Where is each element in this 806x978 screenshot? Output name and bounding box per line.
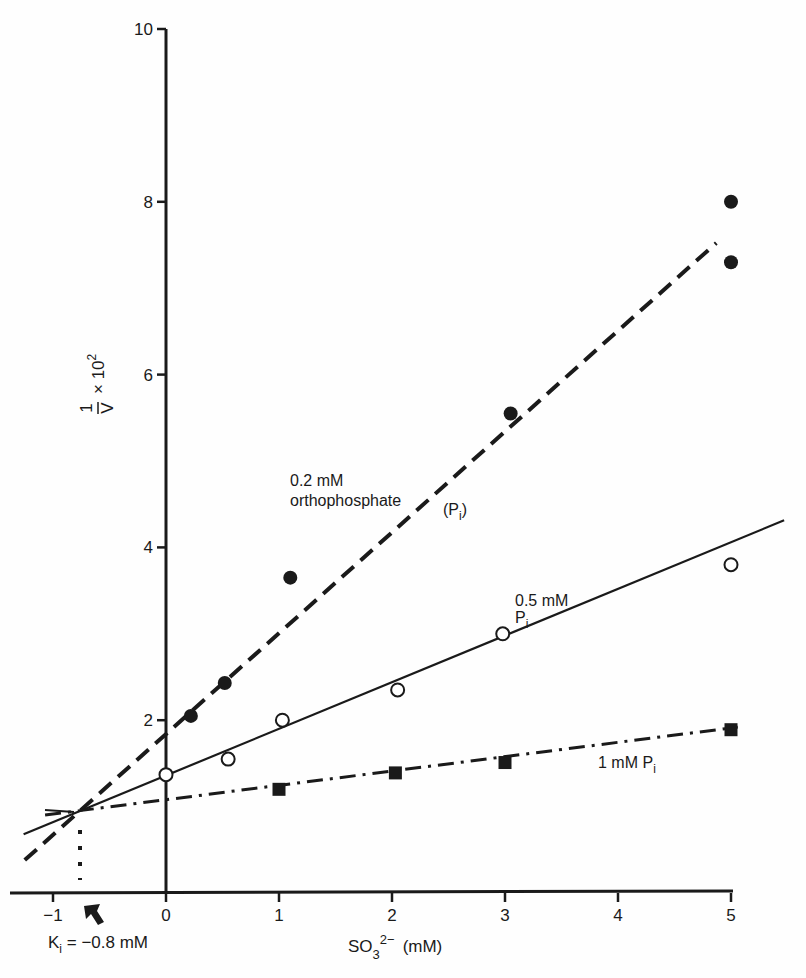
x-axis-title: SO32−(mM) xyxy=(348,932,442,962)
filled-circle-marker xyxy=(283,571,297,585)
annotation-0-5mM: 0.5 mM xyxy=(515,592,568,609)
annotation-orthophosphate-text: orthophosphate xyxy=(290,492,401,509)
ylabel-multiplier: × 102 xyxy=(85,353,108,394)
filled-square-marker xyxy=(725,723,738,736)
pi-sub: i xyxy=(526,617,529,631)
filled-square-marker xyxy=(273,783,286,796)
annotation-1mM: 1 mM Pi xyxy=(598,754,656,776)
y-tick-label: 10 xyxy=(134,20,153,39)
filled-circle-marker xyxy=(184,709,198,723)
y-tick-label: 6 xyxy=(144,366,153,385)
fit-line-solid xyxy=(24,520,784,834)
annotation-0-5mM-text: 0.5 mM xyxy=(515,592,568,609)
y-axis-title: 1 V × 102 xyxy=(77,353,117,414)
ylabel-sup: 2 xyxy=(85,353,99,360)
pi-sub: i xyxy=(653,762,656,776)
data-points xyxy=(160,195,739,796)
open-circle-marker xyxy=(725,558,738,571)
annotation-orthophosphate: orthophosphate xyxy=(290,492,401,509)
filled-circle-marker xyxy=(724,255,738,269)
x-tick-label: 3 xyxy=(500,906,509,925)
pi-P: (P xyxy=(443,501,459,518)
open-circle-marker xyxy=(391,683,404,696)
lineweaver-burk-plot: −1012345 246810 0.2 mM orthophosphate (P… xyxy=(0,0,806,978)
ki-value: = −0.8 mM xyxy=(62,933,148,952)
filled-circle-marker xyxy=(218,676,232,690)
open-circle-marker xyxy=(496,627,509,640)
open-circle-marker xyxy=(160,768,173,781)
annotation-pi-paren: (Pi) xyxy=(443,501,467,523)
filled-square-marker xyxy=(389,766,402,779)
xlabel-sup: 2− xyxy=(380,932,395,947)
pi-close: ) xyxy=(462,501,467,518)
xlabel-unit: (mM) xyxy=(403,937,443,956)
ylabel-denominator: V xyxy=(98,402,117,414)
x-axis xyxy=(10,891,733,893)
y-ticks: 246810 xyxy=(134,20,166,730)
y-tick-label: 2 xyxy=(144,711,153,730)
annotation-0-2mM: 0.2 mM xyxy=(290,472,343,489)
filled-circle-marker xyxy=(724,195,738,209)
filled-circle-marker xyxy=(504,406,518,420)
annotation-0-2mM-line1: 0.2 mM xyxy=(290,472,343,489)
filled-square-marker xyxy=(499,756,512,769)
y-tick-label: 4 xyxy=(144,538,153,557)
ki-K: K xyxy=(48,933,60,952)
y-tick-label: 8 xyxy=(144,193,153,212)
ki-label: Ki = −0.8 mM xyxy=(48,933,148,956)
x-ticks: −1012345 xyxy=(43,893,735,925)
ylabel-numerator: 1 xyxy=(77,403,96,412)
plot-canvas: −1012345 246810 0.2 mM orthophosphate (P… xyxy=(0,0,806,978)
x-tick-label: −1 xyxy=(43,906,62,925)
intersection-tick xyxy=(45,810,74,812)
fit-lines xyxy=(24,243,784,860)
open-circle-marker xyxy=(222,753,235,766)
x-tick-label: 5 xyxy=(726,906,735,925)
xlabel-base: SO xyxy=(348,937,373,956)
x-tick-label: 4 xyxy=(613,906,622,925)
annotation-1mM-text: 1 mM P xyxy=(598,754,653,771)
axes: −1012345 246810 xyxy=(10,20,736,925)
open-circle-marker xyxy=(276,714,289,727)
pi-P: P xyxy=(515,609,526,626)
x-tick-label: 2 xyxy=(387,906,396,925)
xlabel-sub: 3 xyxy=(373,947,380,962)
x-tick-label: 1 xyxy=(274,906,283,925)
x-tick-label: 0 xyxy=(161,906,170,925)
ylabel-mult: × 10 xyxy=(89,360,108,394)
ki-arrow-icon xyxy=(84,904,104,925)
